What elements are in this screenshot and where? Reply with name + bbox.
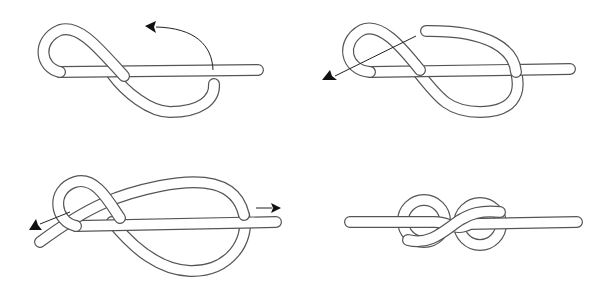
step-4-figure [0,0,608,292]
step-4-rope [350,200,577,245]
knot-diagram [0,0,608,292]
